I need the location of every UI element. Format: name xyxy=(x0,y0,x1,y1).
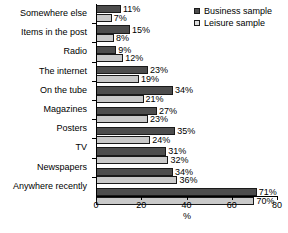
bar-group: 27%23% xyxy=(96,107,277,126)
y-axis-label: The internet xyxy=(39,62,87,81)
bar-chart: Somewhere elseItems in the postRadioThe … xyxy=(0,0,288,233)
y-axis-label: Posters xyxy=(56,119,87,138)
bar-track: 36% xyxy=(96,176,277,184)
bar-value-label: 23% xyxy=(148,115,168,124)
y-axis-label: Magazines xyxy=(43,100,87,119)
bar-value-label: 24% xyxy=(150,135,170,144)
bar-value-label: 21% xyxy=(144,95,164,104)
bar-value-label: 32% xyxy=(168,156,188,165)
bar-leisure xyxy=(96,14,112,22)
legend-swatch-business-icon xyxy=(194,8,200,14)
x-axis-title: % xyxy=(96,212,278,221)
bar-leisure xyxy=(96,136,150,144)
bar-leisure xyxy=(96,75,139,83)
bar-leisure xyxy=(96,115,148,123)
bar-group: 31%32% xyxy=(96,147,277,166)
bar-value-label: 7% xyxy=(112,13,127,22)
bar-track: 71% xyxy=(96,188,277,196)
y-axis-label: Anywhere recently xyxy=(13,177,87,196)
y-axis-label: Newspapers xyxy=(37,158,87,177)
legend: Business sample Leisure sample xyxy=(194,5,272,29)
bar-group: 34%21% xyxy=(96,86,277,105)
x-axis-tick-label: 20 xyxy=(136,201,146,210)
bar-value-label: 15% xyxy=(130,25,150,34)
bar-business xyxy=(96,107,157,115)
bar-group: 23%19% xyxy=(96,66,277,85)
bar-value-label: 34% xyxy=(173,86,193,95)
legend-item-business: Business sample xyxy=(194,5,272,17)
legend-label-leisure: Leisure sample xyxy=(204,19,265,28)
y-axis-label: On the tube xyxy=(40,81,87,100)
bar-value-label: 35% xyxy=(175,127,195,136)
bar-value-label: 8% xyxy=(114,34,129,43)
bar-business xyxy=(96,168,173,176)
bar-leisure xyxy=(96,176,177,184)
bar-leisure xyxy=(96,156,168,164)
legend-label-business: Business sample xyxy=(204,7,272,16)
bar-track: 34% xyxy=(96,86,277,94)
bar-track: 23% xyxy=(96,115,277,123)
bar-value-label: 36% xyxy=(177,176,197,185)
y-axis-labels: Somewhere elseItems in the postRadioThe … xyxy=(0,4,92,196)
y-axis-label: Items in the post xyxy=(21,23,87,42)
bar-value-label: 19% xyxy=(139,74,159,83)
bar-track: 12% xyxy=(96,54,277,62)
legend-swatch-leisure-icon xyxy=(194,20,200,26)
bar-track: 35% xyxy=(96,127,277,135)
legend-item-leisure: Leisure sample xyxy=(194,17,272,29)
x-axis-tick-label: 80 xyxy=(272,201,282,210)
bar-leisure xyxy=(96,34,114,42)
bar-track: 8% xyxy=(96,34,277,42)
bar-track: 32% xyxy=(96,156,277,164)
bar-track: 9% xyxy=(96,46,277,54)
x-axis-tick-label: 40 xyxy=(181,201,191,210)
bar-track: 27% xyxy=(96,107,277,115)
bar-group: 34%36% xyxy=(96,168,277,187)
y-axis-label: Radio xyxy=(63,42,87,61)
y-axis-label: TV xyxy=(75,138,87,157)
y-axis-line xyxy=(96,4,97,197)
bar-track: 23% xyxy=(96,66,277,74)
bar-track: 19% xyxy=(96,75,277,83)
bar-group: 9%12% xyxy=(96,46,277,65)
bar-value-label: 12% xyxy=(123,54,143,63)
bar-track: 21% xyxy=(96,95,277,103)
bar-business xyxy=(96,46,116,54)
bar-leisure xyxy=(96,54,123,62)
bar-business xyxy=(96,188,257,196)
x-axis-tick-label: 0 xyxy=(93,201,98,210)
x-axis-tick-label: 60 xyxy=(227,201,237,210)
y-axis-label: Somewhere else xyxy=(20,4,87,23)
bar-business xyxy=(96,147,166,155)
bar-leisure xyxy=(96,95,144,103)
plot-area: 11%7%15%8%9%12%23%19%34%21%27%23%35%24%3… xyxy=(96,4,277,196)
bar-track: 24% xyxy=(96,136,277,144)
bar-group: 35%24% xyxy=(96,127,277,146)
